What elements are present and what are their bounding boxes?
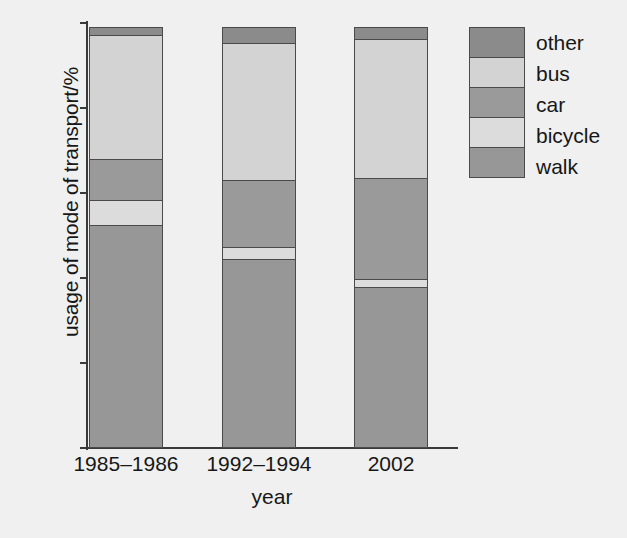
legend-swatch-bus — [469, 57, 525, 88]
legend-swatch-bicycle — [469, 117, 525, 148]
bar-segment-bicycle — [89, 200, 163, 226]
legend-label-car: car — [536, 89, 600, 120]
legend-label-walk: walk — [536, 151, 600, 182]
x-tick-label: 2002 — [301, 452, 481, 476]
legend-label-bicycle: bicycle — [536, 120, 600, 151]
legend-label-other: other — [536, 27, 600, 58]
bar-segment-walk — [222, 259, 296, 448]
legend-swatch-other — [469, 27, 525, 58]
legend-swatch-car — [469, 87, 525, 118]
legend-swatch-column — [469, 27, 525, 177]
bar-segment-bus — [354, 39, 428, 179]
legend-label-column: otherbuscarbicyclewalk — [536, 27, 600, 182]
bar-segment-other — [222, 27, 296, 44]
bar-segment-bus — [222, 43, 296, 181]
bar-segment-walk — [354, 287, 428, 449]
bar-segment-bus — [89, 35, 163, 160]
bar-1 — [89, 27, 163, 448]
bar-segment-car — [222, 180, 296, 248]
plot-area — [86, 23, 457, 448]
bar-segment-car — [89, 159, 163, 202]
bar-segment-walk — [89, 225, 163, 448]
legend-label-bus: bus — [536, 58, 600, 89]
x-axis-title: year — [86, 485, 458, 509]
legend-swatch-walk — [469, 147, 525, 178]
chart-figure: usage of mode of transport/% 02040608010… — [0, 0, 627, 538]
bar-segment-car — [354, 178, 428, 280]
y-axis-title: usage of mode of transport/% — [59, 0, 83, 412]
bar-2 — [222, 27, 296, 448]
bar-3 — [354, 27, 428, 448]
